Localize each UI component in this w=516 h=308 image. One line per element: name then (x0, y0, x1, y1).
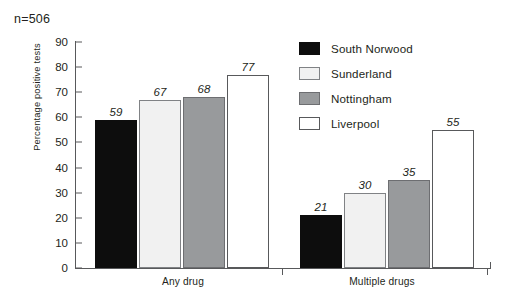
legend-item-label: Liverpool (331, 117, 379, 130)
bar-any-drug-liverpool (227, 75, 269, 268)
legend-swatch-icon (299, 42, 320, 55)
bar-value-label: 77 (227, 61, 269, 73)
legend-swatch-icon (299, 67, 320, 80)
bar-chart: n=506 Percentage positive tests 90 80 70… (0, 0, 516, 308)
bar-multiple-drugs-nottingham (388, 180, 430, 268)
y-tick-label: 0 (36, 262, 68, 274)
y-tick-label: 90 (36, 36, 68, 48)
bar-value-label: 21 (300, 201, 342, 213)
bar-value-label: 35 (388, 166, 430, 178)
y-tick-label: 60 (36, 111, 68, 123)
legend: South Norwood Sunderland Nottingham Live… (299, 36, 413, 136)
plot-area: 59 67 68 77 21 30 35 55 (75, 42, 491, 268)
x-axis-group-separator-tick (282, 269, 283, 275)
x-axis-line (75, 268, 491, 269)
legend-item-nottingham: Nottingham (299, 86, 413, 111)
bar-multiple-drugs-sunderland (344, 193, 386, 268)
bar-multiple-drugs-liverpool (432, 130, 474, 268)
bar-any-drug-nottingham (183, 97, 225, 268)
legend-item-label: South Norwood (331, 42, 413, 55)
y-tick-label: 40 (36, 162, 68, 174)
legend-item-south-norwood: South Norwood (299, 36, 413, 61)
y-tick-label: 10 (36, 237, 68, 249)
legend-item-sunderland: Sunderland (299, 61, 413, 86)
y-tick-label: 80 (36, 61, 68, 73)
y-tick-label: 50 (36, 136, 68, 148)
bar-any-drug-sunderland (139, 100, 181, 268)
bar-value-label: 67 (139, 86, 181, 98)
y-tick-label: 30 (36, 187, 68, 199)
x-axis-category-label-multiple-drugs: Multiple drugs (317, 276, 447, 287)
bar-value-label: 68 (183, 83, 225, 95)
bar-value-label: 59 (95, 106, 137, 118)
legend-swatch-icon (299, 92, 320, 105)
bar-multiple-drugs-south-norwood (300, 215, 342, 268)
x-axis-group-end-tick (487, 269, 488, 275)
x-axis-category-label-any-drug: Any drug (118, 276, 248, 287)
legend-item-label: Sunderland (331, 67, 392, 80)
bar-value-label: 55 (432, 116, 474, 128)
legend-item-label: Nottingham (331, 92, 392, 105)
y-tick-label: 20 (36, 212, 68, 224)
y-tick-label: 70 (36, 86, 68, 98)
legend-item-liverpool: Liverpool (299, 111, 413, 136)
legend-swatch-icon (299, 117, 320, 130)
bar-any-drug-south-norwood (95, 120, 137, 268)
bar-value-label: 30 (344, 179, 386, 191)
